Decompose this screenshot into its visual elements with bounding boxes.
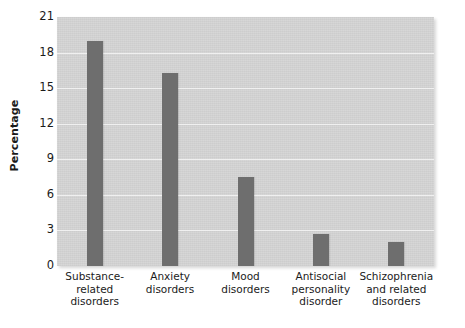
y-tick-label: 15 (28, 82, 54, 94)
y-tick-label: 6 (28, 189, 54, 201)
y-tick-label: 18 (28, 47, 54, 59)
x-axis-tick-labels: Substance- related disordersAnxiety diso… (57, 270, 434, 328)
y-tick-label: 12 (28, 118, 54, 130)
x-tick-label: Anxiety disorders (132, 270, 207, 295)
bar (388, 242, 404, 266)
bar (162, 73, 178, 266)
y-axis-title-text: Percentage (9, 99, 22, 171)
y-axis-tick-labels: 036912151821 (28, 0, 54, 328)
plot-area (57, 17, 434, 266)
y-tick-label: 9 (28, 154, 54, 166)
bar (87, 41, 103, 266)
x-tick-label: Antisocial personality disorder (283, 270, 358, 308)
bar (238, 177, 254, 266)
gridline (57, 53, 434, 54)
y-tick-label: 3 (28, 225, 54, 237)
bar (313, 234, 329, 266)
y-tick-label: 21 (28, 11, 54, 23)
x-tick-label: Schizophrenia and related disorders (359, 270, 434, 308)
gridline (57, 159, 434, 160)
y-tick-label: 0 (28, 260, 54, 272)
x-tick-label: Substance- related disorders (57, 270, 132, 308)
bar-chart-figure: Percentage 036912151821 Substance- relat… (0, 0, 465, 328)
y-axis-title: Percentage (0, 0, 30, 270)
gridline (57, 88, 434, 89)
gridline (57, 124, 434, 125)
x-tick-label: Mood disorders (208, 270, 283, 295)
